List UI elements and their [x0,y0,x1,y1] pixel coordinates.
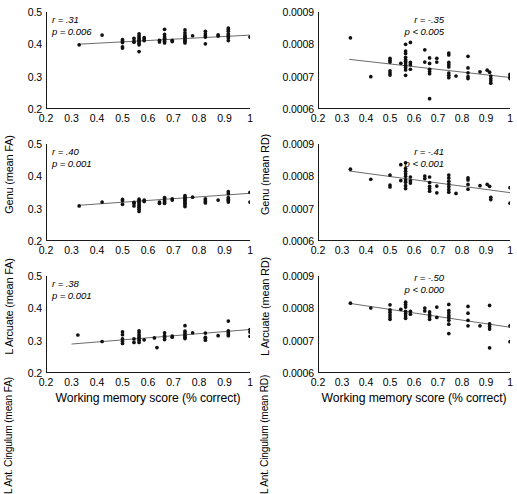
data-point [388,60,392,64]
data-point [404,169,408,173]
data-point [447,311,451,315]
data-point [216,198,220,202]
data-point [388,69,392,73]
data-point [121,199,125,203]
data-point [226,334,230,338]
data-point [158,201,162,205]
data-point [409,309,413,313]
y-tick-label: 0.0007 [282,71,314,83]
data-point [466,71,470,75]
y-tick-label: 0.0009 [282,138,314,150]
data-point [183,197,187,201]
data-point [388,315,392,319]
x-axis-title-cingulum-fa: Working memory score (% correct) [46,391,250,405]
y-tick-label: 0.0007 [282,203,314,215]
data-point [137,335,141,339]
y-tick-label: 0.2 [28,235,42,247]
data-point [404,174,408,178]
data-point [466,176,470,180]
data-point [163,41,167,45]
data-point [155,346,159,350]
data-point [447,61,451,65]
data-point [508,186,510,190]
x-tick-label: 0.8 [455,244,469,256]
data-point [204,337,208,341]
data-point [423,48,427,52]
data-point [226,28,230,32]
r-value: r = -.35 [378,14,444,26]
data-point [170,198,174,202]
data-point [142,198,146,202]
plot-area-genu-rd [318,12,510,109]
y-axis-title-arcuate-fa: L Arcuate (mean FA) [2,251,16,362]
data-point [488,304,492,308]
data-point [428,72,432,76]
data-point [121,46,125,50]
data-point [137,207,141,211]
x-tick-label: 0.4 [90,244,104,256]
data-point [204,42,208,46]
data-point [423,306,427,310]
data-point [170,40,174,44]
x-tick-label: 0.8 [455,112,469,124]
y-axis-title-genu-rd: Genu (mean RD) [258,119,272,230]
data-point [183,199,187,203]
data-point [466,324,470,328]
data-point [423,309,427,313]
x-tick-label: 0.7 [431,244,445,256]
stats-annotation-genu-fa: r = .31p = 0.006 [52,14,91,37]
data-point [428,97,432,101]
data-point [132,341,136,345]
data-point [399,61,403,65]
data-point [226,332,230,336]
data-point [226,331,230,335]
plot-area-arcuate-rd [318,144,510,241]
y-tick-label: 0.3 [28,335,42,347]
data-point [409,61,413,65]
data-point [349,167,353,171]
x-tick-label: 0.6 [141,112,155,124]
data-point [404,300,408,304]
x-tick-label: 0.4 [359,244,373,256]
data-point [447,188,451,192]
x-tick-label: 0.7 [166,376,180,388]
x-tick-label: 1 [247,376,253,388]
data-point [183,200,187,204]
x-tick-label: 0.2 [311,244,325,256]
x-tick-label: 0.3 [335,112,349,124]
scatter-layer-genu-fa [46,12,250,109]
data-point [163,38,167,42]
data-point [447,303,451,307]
y-tick-label: 0.0006 [282,103,314,115]
data-point [447,182,451,186]
data-point [121,330,125,334]
data-point [137,338,141,342]
data-point [435,316,439,320]
y-tick-label: 0.0008 [282,38,314,50]
x-tick-label: 1 [247,244,253,256]
data-point [183,201,187,205]
data-point [163,336,167,340]
data-point [226,36,230,40]
data-point [142,200,146,204]
y-tick-label: 0.4 [28,170,42,182]
data-point [183,38,187,42]
data-point [466,311,470,315]
y-tick-label: 0.0009 [282,6,314,18]
data-point [137,36,141,40]
data-point [191,34,195,38]
data-point [435,191,439,195]
data-point [191,195,195,199]
data-point [183,37,187,41]
plot-area-genu-fa [46,12,250,109]
data-point [388,183,392,187]
x-tick-label: 0.6 [141,376,155,388]
data-point [132,201,136,205]
data-point [489,198,493,202]
plot-area-arcuate-fa [46,144,250,241]
data-point [478,184,482,188]
x-tick-label: 0.6 [141,244,155,256]
data-point [137,329,141,333]
y-tick-label: 0.0007 [282,335,314,347]
